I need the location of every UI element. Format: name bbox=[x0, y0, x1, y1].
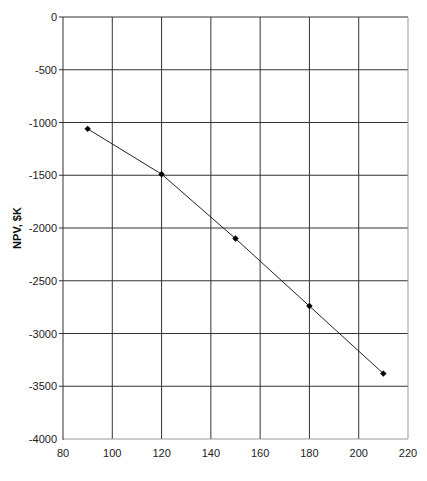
y-tick-label: -3500 bbox=[29, 380, 57, 392]
y-axis-label: NPV, $K bbox=[11, 207, 23, 249]
series-line bbox=[88, 129, 384, 374]
series-layer bbox=[84, 126, 386, 377]
x-tick-label: 100 bbox=[103, 447, 121, 459]
y-tick-label: -500 bbox=[35, 64, 57, 76]
y-tick-label: -2500 bbox=[29, 275, 57, 287]
x-tick-label: 160 bbox=[251, 447, 269, 459]
grid-layer bbox=[59, 17, 408, 439]
y-tick-label: -1000 bbox=[29, 117, 57, 129]
line-chart: 0-500-1000-1500-2000-2500-3000-3500-4000… bbox=[0, 0, 427, 481]
x-tick-label: 180 bbox=[300, 447, 318, 459]
data-point-marker bbox=[84, 126, 90, 132]
x-tick-label: 220 bbox=[399, 447, 417, 459]
y-tick-label: -4000 bbox=[29, 433, 57, 445]
x-tick-label: 200 bbox=[350, 447, 368, 459]
x-tick-labels: 80100120140160180200220 bbox=[57, 447, 417, 459]
y-tick-label: -1500 bbox=[29, 169, 57, 181]
y-tick-label: -2000 bbox=[29, 222, 57, 234]
y-tick-label: 0 bbox=[51, 11, 57, 23]
y-tick-labels: 0-500-1000-1500-2000-2500-3000-3500-4000 bbox=[29, 11, 57, 445]
x-tick-label: 80 bbox=[57, 447, 69, 459]
y-tick-label: -3000 bbox=[29, 328, 57, 340]
x-tick-label: 140 bbox=[202, 447, 220, 459]
x-tick-label: 120 bbox=[152, 447, 170, 459]
